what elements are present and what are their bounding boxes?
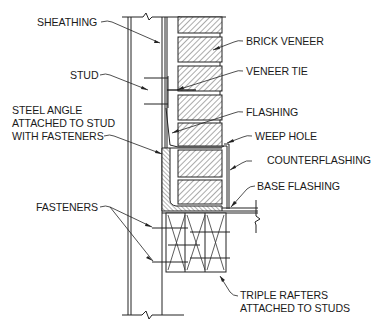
label-text: VENEER TIE xyxy=(246,65,308,77)
label-triple-rafters: TRIPLE RAFTERS ATTACHED TO STUDS xyxy=(220,276,350,314)
brick-veneer xyxy=(178,17,222,204)
label-stud: STUD xyxy=(70,69,148,90)
label-text: FLASHING xyxy=(246,106,298,118)
label-text: BASE FLASHING xyxy=(257,180,340,192)
triple-rafters xyxy=(166,213,230,272)
label-text: ATTACHED TO STUD xyxy=(12,117,115,129)
label-sheathing: SHEATHING xyxy=(37,16,160,43)
label-steel-angle: STEEL ANGLE ATTACHED TO STUD WITH FASTEN… xyxy=(12,104,162,154)
label-text: ATTACHED TO STUDS xyxy=(240,302,350,314)
label-text: WEEP HOLE xyxy=(255,130,317,142)
stud-flange-lines xyxy=(144,76,168,108)
label-text: TRIPLE RAFTERS xyxy=(240,289,328,301)
label-text: COUNTERFLASHING xyxy=(267,154,371,166)
label-text: BRICK VENEER xyxy=(246,35,324,47)
label-text: FASTENERS xyxy=(36,201,98,213)
label-brick-veneer: BRICK VENEER xyxy=(213,35,324,50)
label-text: STEEL ANGLE xyxy=(12,104,82,116)
label-base-flashing: BASE FLASHING xyxy=(231,180,340,207)
wall-section-diagram: SHEATHING STUD STEEL ANGLE ATTACHED TO S… xyxy=(0,0,385,331)
stud xyxy=(128,17,131,315)
label-text: SHEATHING xyxy=(37,16,97,28)
label-fasteners: FASTENERS xyxy=(36,201,153,261)
label-text: WITH FASTENERS xyxy=(12,130,104,142)
label-text: STUD xyxy=(70,69,99,81)
label-weep-hole: WEEP HOLE xyxy=(227,130,317,143)
label-counterflashing: COUNTERFLASHING xyxy=(230,154,371,170)
counterflashing xyxy=(222,144,229,209)
